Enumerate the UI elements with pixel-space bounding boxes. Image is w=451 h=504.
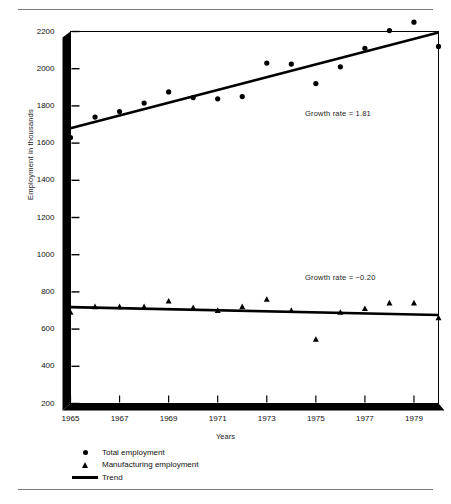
data-point-manufacturing-employment — [386, 300, 392, 306]
x-tick-label: 1971 — [198, 415, 238, 423]
data-point-total-employment — [387, 28, 392, 33]
legend-label: Manufacturing employment — [102, 460, 199, 469]
data-point-total-employment — [117, 109, 122, 114]
data-point-manufacturing-employment — [166, 298, 172, 304]
data-point-total-employment — [68, 135, 73, 140]
data-point-total-employment — [264, 61, 269, 66]
trend-line — [71, 307, 439, 315]
figure-chart: Employment in thousands Years 2004006008… — [0, 0, 451, 504]
legend-item: Trend — [72, 471, 199, 484]
x-tick-label: 1969 — [149, 415, 189, 423]
data-point-total-employment — [240, 94, 245, 99]
data-point-total-employment — [289, 61, 294, 66]
annotation-growth-rate-manufacturing: Growth rate = −0.20 — [305, 273, 376, 282]
y-tick-label: 400 — [15, 362, 55, 370]
data-point-manufacturing-employment — [117, 304, 123, 310]
dot-glyph-icon — [83, 450, 88, 455]
data-point-total-employment — [215, 96, 220, 101]
data-point-manufacturing-employment — [411, 300, 417, 306]
legend-item: Total employment — [72, 446, 199, 459]
x-tick-label: 1975 — [296, 415, 336, 423]
data-point-total-employment — [362, 46, 367, 51]
data-point-total-employment — [166, 89, 171, 94]
x-tick-label: 1973 — [247, 415, 287, 423]
triangle-marker-icon — [72, 462, 98, 468]
data-point-manufacturing-employment — [288, 307, 294, 313]
y-tick-label: 1800 — [15, 102, 55, 110]
data-point-total-employment — [338, 64, 343, 69]
data-point-total-employment — [191, 95, 196, 100]
legend-label: Total employment — [102, 448, 165, 457]
data-point-manufacturing-employment — [190, 305, 196, 311]
data-point-manufacturing-employment — [264, 296, 270, 302]
y-tick-label: 1200 — [15, 214, 55, 222]
plot-area — [0, 0, 451, 504]
y-tick-label: 2000 — [15, 65, 55, 73]
dot-marker-icon — [72, 450, 98, 455]
data-point-total-employment — [92, 114, 97, 119]
trend-line — [71, 32, 439, 128]
y-tick-label: 600 — [15, 325, 55, 333]
data-point-manufacturing-employment — [141, 304, 147, 310]
y-axis-bar — [63, 32, 71, 411]
data-point-manufacturing-employment — [239, 304, 245, 310]
data-point-total-employment — [436, 44, 441, 49]
annotation-growth-rate-total: Growth rate = 1.81 — [305, 109, 371, 118]
data-point-manufacturing-employment — [313, 336, 319, 342]
x-axis-bar — [63, 404, 445, 411]
x-tick-label: 1965 — [51, 415, 91, 423]
x-tick-label: 1977 — [345, 415, 385, 423]
y-tick-label: 800 — [15, 288, 55, 296]
legend-item: Manufacturing employment — [72, 459, 199, 472]
y-tick-label: 1600 — [15, 139, 55, 147]
legend-label: Trend — [102, 473, 123, 482]
data-point-manufacturing-employment — [362, 305, 368, 311]
plot-frame — [71, 32, 439, 404]
trend-line-icon — [72, 476, 98, 479]
x-tick-label: 1979 — [394, 415, 434, 423]
y-tick-label: 200 — [15, 400, 55, 408]
y-tick-label: 1400 — [15, 176, 55, 184]
data-point-total-employment — [142, 101, 147, 106]
data-point-total-employment — [313, 81, 318, 86]
legend: Total employmentManufacturing employment… — [72, 446, 199, 484]
y-tick-label: 1000 — [15, 251, 55, 259]
x-tick-label: 1967 — [100, 415, 140, 423]
triangle-glyph-icon — [82, 462, 88, 468]
y-tick-label: 2200 — [15, 28, 55, 36]
data-point-total-employment — [411, 20, 416, 25]
